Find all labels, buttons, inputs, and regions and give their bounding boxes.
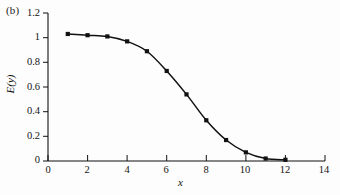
- data-point: [224, 138, 228, 142]
- data-point: [85, 33, 89, 37]
- data-point: [145, 49, 149, 53]
- data-point: [105, 34, 109, 38]
- data-point: [244, 150, 248, 154]
- data-point: [165, 69, 169, 73]
- plot-svg: [0, 0, 340, 195]
- figure-panel-b: (b) E(y) x 1.2 1 0.8 0.6 0.4 0.2 0 0 2 4…: [0, 0, 340, 195]
- data-point: [204, 118, 208, 122]
- y-axis-ticks: [43, 13, 48, 161]
- data-point: [283, 158, 287, 162]
- data-point: [125, 39, 129, 43]
- data-point: [66, 32, 70, 36]
- data-point: [264, 156, 268, 160]
- data-point: [184, 92, 188, 96]
- data-point-markers: [66, 32, 288, 162]
- data-series-curve: [68, 34, 286, 160]
